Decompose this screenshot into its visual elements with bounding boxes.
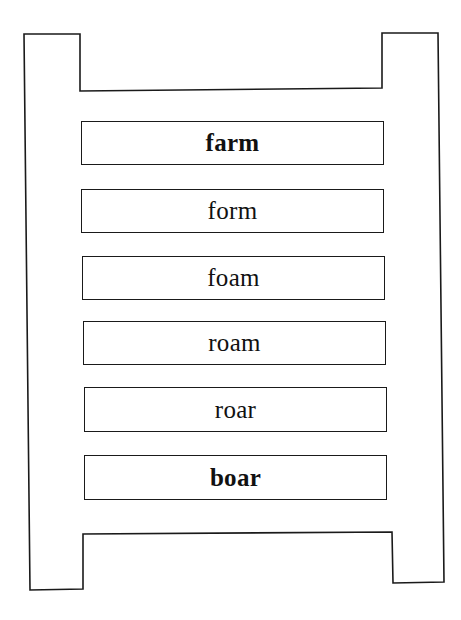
ladder-outline <box>24 33 444 590</box>
rung-step-4: roar <box>84 387 387 432</box>
rung-word: foam <box>207 264 260 292</box>
rung-step-1: form <box>81 189 384 233</box>
rung-start-word: farm <box>81 121 384 165</box>
rung-step-2: foam <box>82 256 385 300</box>
rung-word: roam <box>208 329 261 357</box>
rung-word: form <box>208 197 258 225</box>
rung-word: farm <box>206 129 260 157</box>
rung-word: roar <box>215 396 256 424</box>
ladder-frame <box>0 0 461 620</box>
rung-step-3: roam <box>83 321 386 365</box>
rung-word: boar <box>210 464 261 492</box>
rung-end-word: boar <box>84 455 387 500</box>
